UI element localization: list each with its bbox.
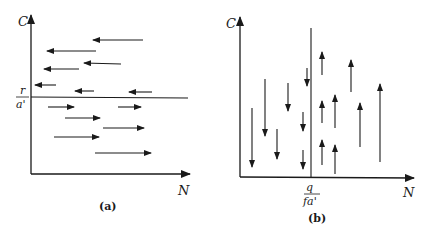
- x-axis-label: N: [402, 185, 415, 200]
- flow-arrows-right: [48, 107, 151, 153]
- flow-arrows-down: [252, 68, 307, 169]
- x-axis: [240, 177, 414, 178]
- flow-arrows-left: [35, 40, 152, 92]
- isocline-label-numerator: q: [306, 181, 313, 194]
- y-axis-label: C: [18, 14, 28, 29]
- isocline-label-numerator: r: [20, 84, 26, 97]
- isocline-label-denominator: fa': [302, 195, 317, 208]
- panel-caption: (a): [99, 200, 117, 213]
- panel-a: C N r a' (a): [16, 14, 190, 213]
- isocline-label-denominator: a': [16, 98, 26, 111]
- x-axis-label: N: [177, 183, 190, 198]
- panel-caption: (b): [308, 212, 326, 225]
- zero-isocline: [31, 97, 188, 98]
- y-axis-label: C: [226, 16, 236, 31]
- panel-b: C N q fa' (b): [226, 16, 415, 225]
- flow-arrows-up: [322, 52, 380, 174]
- phase-plane-diagram: C N r a' (a) C N q: [0, 0, 427, 238]
